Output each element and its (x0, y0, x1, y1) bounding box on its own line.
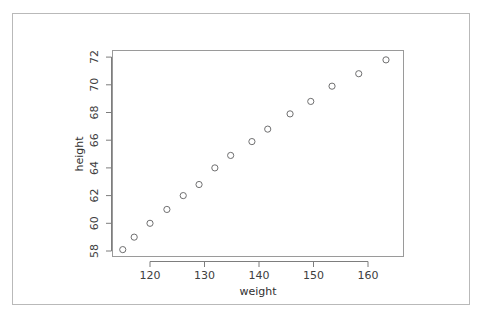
data-point (383, 57, 389, 63)
data-point (287, 111, 293, 117)
data-point (228, 152, 234, 158)
y-tick-label: 60 (88, 216, 101, 230)
y-tick-label: 58 (88, 244, 101, 258)
x-tick-label: 150 (303, 269, 324, 282)
data-point (249, 138, 255, 144)
data-point (164, 206, 170, 212)
data-point (212, 165, 218, 171)
scatter-plot: 58 60 62 64 66 68 70 72 120 130 140 150 … (0, 0, 488, 323)
data-point (308, 98, 314, 104)
data-points-layer (120, 57, 389, 253)
data-point (131, 234, 137, 240)
data-point (265, 126, 271, 132)
data-point (180, 193, 186, 199)
x-tick-label: 120 (140, 269, 161, 282)
y-tick-label: 68 (88, 106, 101, 120)
y-tick-label: 70 (88, 78, 101, 92)
y-axis-title: height (73, 136, 86, 172)
x-tick-label: 160 (358, 269, 379, 282)
data-point (356, 71, 362, 77)
x-axis-title: weight (239, 285, 277, 298)
data-point (120, 247, 126, 253)
y-axis-ticks (106, 57, 112, 251)
data-point (329, 83, 335, 89)
y-tick-label: 62 (88, 189, 101, 203)
x-tick-label: 140 (249, 269, 270, 282)
data-point (147, 220, 153, 226)
x-tick-label: 130 (194, 269, 215, 282)
data-point (196, 181, 202, 187)
figure-root: 58 60 62 64 66 68 70 72 120 130 140 150 … (0, 0, 488, 323)
y-tick-label: 72 (88, 50, 101, 64)
y-tick-label: 64 (88, 161, 101, 175)
x-axis-tick-labels: 120 130 140 150 160 (140, 269, 379, 282)
plot-panel-border (113, 51, 404, 257)
y-tick-label: 66 (88, 133, 101, 147)
x-axis-ticks (150, 262, 368, 268)
y-axis-tick-labels: 58 60 62 64 66 68 70 72 (88, 50, 101, 258)
